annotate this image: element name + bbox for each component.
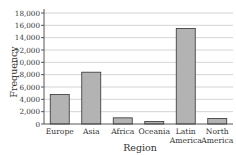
bar-chart: 02,0004,0006,0008,00010,00012,00014,0001… xyxy=(0,0,236,155)
x-tick-label: North xyxy=(206,127,229,136)
y-tick-label: 4,000 xyxy=(19,95,40,104)
x-tick-label: Latin xyxy=(176,127,196,136)
bar-europe xyxy=(50,94,69,124)
y-tick-label: 0 xyxy=(35,120,40,129)
gridlines xyxy=(44,13,233,112)
x-tick-label: Oceania xyxy=(139,127,171,136)
y-tick-label: 14,000 xyxy=(15,33,41,42)
x-axis-title: Region xyxy=(123,142,157,153)
y-axis-title: Frequency xyxy=(8,46,19,98)
x-tick-label: America xyxy=(200,136,233,145)
x-tick-label: America xyxy=(169,136,202,145)
bar-latin-america xyxy=(176,28,195,124)
x-tick-label: Europe xyxy=(46,127,74,136)
y-tick-label: 18,000 xyxy=(15,9,41,18)
bar-africa xyxy=(113,118,132,124)
x-tick-label: Africa xyxy=(110,127,134,136)
y-tick-label: 6,000 xyxy=(19,83,40,92)
y-tick-label: 2,000 xyxy=(19,107,40,116)
x-tick-label: Asia xyxy=(82,127,100,136)
bar-asia xyxy=(82,72,101,124)
bars xyxy=(50,28,227,124)
bar-north-america xyxy=(208,118,227,124)
y-axis: 02,0004,0006,0008,00010,00012,00014,0001… xyxy=(15,9,44,129)
y-tick-label: 8,000 xyxy=(19,70,40,79)
y-tick-label: 16,000 xyxy=(15,21,41,30)
